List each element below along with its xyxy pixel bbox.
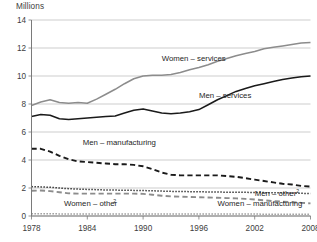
- x-tick-label: 1978: [22, 224, 41, 233]
- y-axis-labels: 02468101214: [17, 16, 27, 221]
- chart-container: Millions 02468101214 1978198419901996200…: [0, 0, 317, 242]
- series-annotation-2: Men – manufacturing: [83, 138, 156, 147]
- axis-lines: [32, 20, 311, 216]
- y-tick-label: 8: [21, 100, 26, 109]
- series-annotation-superscript-3: 2: [296, 188, 299, 194]
- gridlines: [32, 20, 311, 216]
- line-chart-plot: 02468101214 197819841990199620022008 Wom…: [0, 0, 317, 242]
- y-tick-label: 14: [17, 16, 27, 25]
- y-tick-label: 0: [21, 212, 26, 221]
- x-tick-label: 2008: [301, 224, 317, 233]
- y-tick-label: 10: [17, 72, 27, 81]
- series-annotation-superscript-5: 2: [113, 198, 116, 204]
- y-tick-label: 2: [21, 184, 26, 193]
- x-tick-label: 1990: [134, 224, 153, 233]
- series-annotation-0: Women – services: [162, 54, 226, 63]
- y-tick-label: 12: [17, 44, 27, 53]
- series-line-0: [32, 42, 311, 105]
- series-annotation-3: Men – other: [255, 189, 297, 198]
- series-line-2: [32, 149, 311, 187]
- x-axis-labels: 197819841990199620022008: [22, 224, 317, 233]
- series-annotations: Women – servicesMen – servicesMen – manu…: [64, 54, 302, 208]
- series-line-1: [32, 76, 311, 119]
- series-annotation-5: Women – other: [64, 199, 118, 208]
- series-annotation-4: Women – manufacturing: [218, 199, 303, 208]
- x-tick-label: 1984: [78, 224, 97, 233]
- series-annotation-1: Men – services: [199, 91, 252, 100]
- y-tick-label: 4: [21, 156, 26, 165]
- x-tick-label: 2002: [246, 224, 265, 233]
- y-tick-label: 6: [21, 128, 26, 137]
- x-tick-label: 1996: [190, 224, 209, 233]
- x-axis-ticks: [32, 216, 311, 220]
